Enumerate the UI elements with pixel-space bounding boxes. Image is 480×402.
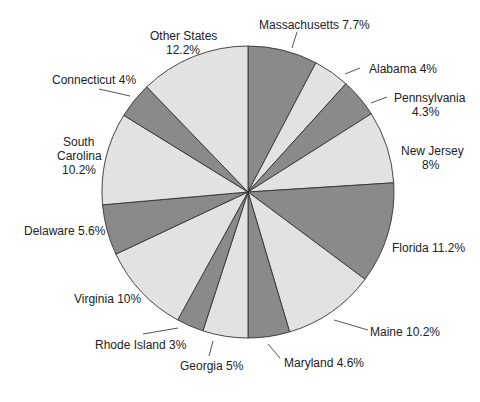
label-south-carolina-pct: 10.2% (62, 163, 96, 177)
label-new-jersey-name: New Jersey (401, 144, 464, 158)
pie-chart: Massachusetts 7.7% Alabama 4% Pennsylvan… (0, 0, 480, 402)
label-south-carolina-line2: Carolina (57, 149, 102, 163)
pie-slices (102, 46, 394, 338)
label-pennsylvania-name: Pennsylvania (394, 91, 466, 105)
label-connecticut: Connecticut 4% (52, 73, 136, 87)
label-pennsylvania-pct: 4.3% (412, 105, 440, 119)
label-virginia: Virginia 10% (74, 292, 141, 306)
leader-line-massachusetts (292, 32, 297, 48)
leader-line-georgia (209, 341, 213, 356)
leader-line-pennsylvania (371, 97, 387, 103)
leader-line-connecticut (99, 89, 130, 96)
leader-line-maryland (268, 344, 280, 358)
label-florida: Florida 11.2% (392, 241, 465, 255)
label-delaware: Delaware 5.6% (24, 224, 106, 238)
leader-line-maine (334, 320, 368, 330)
label-georgia: Georgia 5% (180, 359, 244, 373)
label-south-carolina-line1: South (63, 135, 94, 149)
label-alabama: Alabama 4% (369, 62, 437, 76)
label-new-jersey-pct: 8% (422, 158, 440, 172)
label-maryland: Maryland 4.6% (284, 356, 364, 370)
label-massachusetts: Massachusetts 7.7% (259, 18, 370, 32)
leader-line-alabama (345, 68, 360, 74)
label-maine: Maine 10.2% (370, 325, 440, 339)
label-other-states-name: Other States (150, 29, 217, 43)
label-rhode-island: Rhode Island 3% (95, 338, 187, 352)
label-other-states-pct: 12.2% (166, 43, 200, 57)
leader-line-rhode-island (143, 328, 178, 334)
